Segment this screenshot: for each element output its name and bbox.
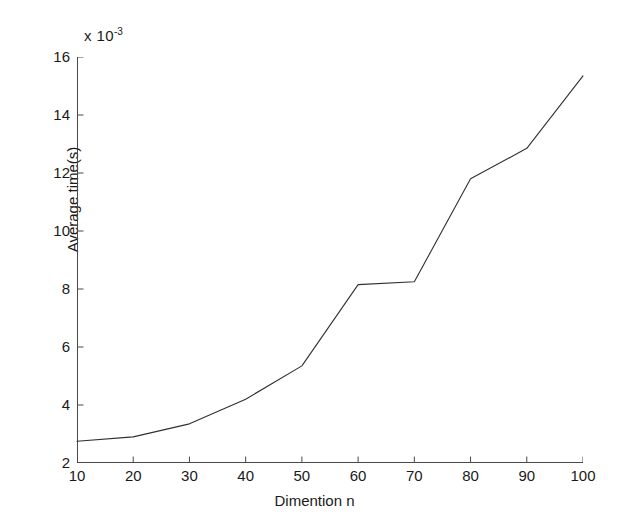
data-line-0 [77,76,583,441]
y-axis-tick-label: 4 [36,397,70,412]
x-axis-tick-label: 60 [350,468,367,484]
x-axis-title: Dimention n [0,492,629,509]
y-axis-tick-label: 6 [36,339,70,354]
x-axis-tick-label: 100 [570,468,595,484]
y-exponent-power: -3 [114,26,123,37]
x-axis-tick-label: 10 [69,468,86,484]
x-axis-tick-label: 90 [518,468,535,484]
plot-area [77,57,583,463]
y-axis-exponent-label: x 10-3 [84,26,123,44]
y-axis-tick-label: 16 [36,49,70,64]
x-axis-tick-label: 40 [237,468,254,484]
x-axis-tick-label: 70 [406,468,423,484]
x-axis-tick-label: 30 [181,468,198,484]
x-axis-tick-label: 80 [462,468,479,484]
x-axis-tick-labels: 102030405060708090100 [0,468,629,490]
x-axis-tick-label: 50 [294,468,311,484]
y-exponent-base: x 10 [84,27,114,44]
data-series-layer [77,57,583,463]
x-axis-tick-label: 20 [125,468,142,484]
figure-canvas: x 10-3 246810121416 Average time(s) 1020… [0,0,629,526]
